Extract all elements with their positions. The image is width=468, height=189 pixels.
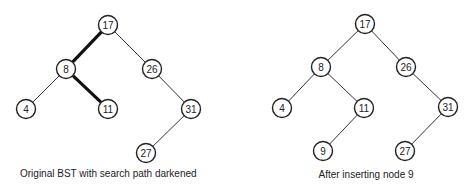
- svg-text:31: 31: [442, 102, 454, 113]
- tree-node-31: 31: [182, 100, 201, 119]
- tree-node-26: 26: [397, 58, 416, 77]
- tree-node-27: 27: [396, 142, 415, 161]
- edge-17-26: [115, 32, 146, 63]
- tree-node-9: 9: [314, 142, 333, 161]
- edge-8-11: [328, 74, 357, 102]
- tree-node-8: 8: [312, 58, 331, 77]
- svg-text:27: 27: [399, 146, 411, 157]
- svg-text:26: 26: [400, 62, 412, 73]
- tree-node-17: 17: [356, 15, 375, 34]
- tree-node-11: 11: [355, 99, 374, 118]
- edge-31-27: [153, 116, 184, 147]
- edge-11-9: [330, 115, 358, 144]
- tree-node-26: 26: [143, 60, 162, 79]
- svg-text:17: 17: [102, 20, 114, 31]
- svg-text:26: 26: [146, 64, 158, 75]
- edge-17-26: [372, 31, 400, 60]
- svg-text:17: 17: [359, 19, 371, 30]
- left-diagram-caption: Original BST with search path darkened: [20, 168, 197, 179]
- edge-26-31: [159, 76, 185, 102]
- tree-node-31: 31: [439, 98, 458, 117]
- right-tree: 1782641131927: [273, 15, 458, 161]
- tree-node-17: 17: [99, 16, 118, 35]
- right-diagram-caption: After inserting node 9: [318, 169, 413, 180]
- svg-text:11: 11: [359, 103, 370, 114]
- edge-17-8: [73, 32, 102, 62]
- svg-text:8: 8: [63, 64, 69, 75]
- edge-8-4: [33, 76, 60, 103]
- svg-text:31: 31: [185, 104, 197, 115]
- edge-26-31: [413, 74, 441, 101]
- svg-text:9: 9: [320, 146, 326, 157]
- svg-text:4: 4: [279, 103, 285, 114]
- edge-8-4: [289, 74, 315, 101]
- tree-node-11: 11: [99, 100, 118, 119]
- tree-node-27: 27: [137, 144, 156, 163]
- tree-node-4: 4: [17, 100, 36, 119]
- tree-node-4: 4: [273, 99, 292, 118]
- bst-diagram-canvas: 1782641131271782641131927: [0, 0, 468, 189]
- svg-text:27: 27: [140, 148, 152, 159]
- edge-31-27: [412, 114, 442, 144]
- tree-node-8: 8: [57, 60, 76, 79]
- left-tree: 178264113127: [17, 16, 201, 163]
- edge-17-8: [328, 31, 358, 61]
- svg-text:11: 11: [103, 104, 114, 115]
- svg-text:8: 8: [318, 62, 324, 73]
- edge-8-11: [73, 76, 101, 103]
- svg-text:4: 4: [23, 104, 29, 115]
